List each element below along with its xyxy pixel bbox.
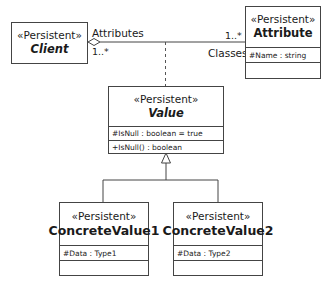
attributes-compartment: #Data : Type1 [60, 246, 148, 261]
operations-compartment [246, 63, 320, 78]
class-attribute[interactable]: «Persistent» Attribute #Name : string [245, 6, 321, 79]
class-name: Attribute [253, 26, 312, 41]
role-classes-label: Classes [208, 47, 248, 59]
stereotype-label: «Persistent» [251, 13, 316, 26]
attributes-compartment: #Data : Type2 [174, 246, 262, 261]
class-concrete-value2-name-compartment: «Persistent» ConcreteValue2 [174, 203, 262, 246]
role-attributes-label: Attributes [92, 27, 144, 39]
class-concrete-value1-name-compartment: «Persistent» ConcreteValue1 [60, 203, 148, 246]
client-multiplicity-label: 1..* [92, 46, 109, 57]
stereotype-label: «Persistent» [17, 29, 82, 42]
attribute-entry: #IsNull : boolean = true [112, 129, 203, 138]
class-client[interactable]: «Persistent» Client [11, 22, 88, 64]
operations-compartment [60, 261, 148, 275]
class-value-name-compartment: «Persistent» Value [109, 87, 223, 127]
class-name: ConcreteValue1 [49, 223, 160, 238]
attributes-compartment: #Name : string [246, 48, 320, 63]
generalization-triangle-icon [162, 153, 171, 163]
class-value[interactable]: «Persistent» Value #IsNull : boolean = t… [108, 86, 224, 154]
operation-entry: +IsNull() : boolean [112, 143, 182, 152]
attribute-entry: #Name : string [249, 51, 306, 60]
class-client-name-compartment: «Persistent» Client [12, 23, 87, 63]
attribute-entry: #Data : Type2 [177, 249, 231, 258]
attribute-entry: #Data : Type1 [63, 249, 117, 258]
stereotype-label: «Persistent» [72, 210, 137, 223]
class-concrete-value2[interactable]: «Persistent» ConcreteValue2 #Data : Type… [173, 202, 263, 276]
class-concrete-value1[interactable]: «Persistent» ConcreteValue1 #Data : Type… [59, 202, 149, 276]
operations-compartment: +IsNull() : boolean [109, 141, 223, 153]
attributes-compartment: #IsNull : boolean = true [109, 127, 223, 141]
aggregation-diamond-icon [88, 39, 100, 46]
class-name: ConcreteValue2 [163, 223, 274, 238]
class-name: Value [148, 106, 184, 121]
attribute-multiplicity-label: 1..* [225, 30, 242, 41]
stereotype-label: «Persistent» [134, 93, 199, 106]
operations-compartment [174, 261, 262, 275]
stereotype-label: «Persistent» [186, 210, 251, 223]
class-attribute-name-compartment: «Persistent» Attribute [246, 7, 320, 48]
class-name: Client [31, 42, 69, 57]
